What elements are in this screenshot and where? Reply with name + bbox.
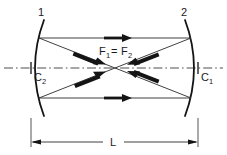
- optics-figure: 1 2 F 1 = F 2 C 2 C 1 L: [0, 0, 227, 155]
- focal-point-label-equals: =: [111, 45, 117, 57]
- length-dimension-label: L: [110, 136, 116, 148]
- dimension-arrowhead-right-icon: [188, 139, 198, 144]
- focal-point-label-f2-sub: 2: [128, 51, 132, 60]
- ray-bottom-arrowhead-icon: [122, 94, 132, 102]
- ray-bottom-arrow-tail: [104, 97, 124, 100]
- center-curvature-left-sub: 2: [42, 77, 46, 86]
- center-curvature-right-sub: 1: [209, 77, 213, 86]
- ray-top-arrow-tail: [104, 37, 124, 40]
- mirror-left-label: 1: [38, 6, 44, 18]
- dimension-arrowhead-left-icon: [31, 139, 41, 144]
- ray-top-arrowhead-icon: [122, 34, 132, 42]
- center-curvature-left-label: C: [34, 71, 42, 83]
- center-curvature-right-label: C: [201, 71, 209, 83]
- mirror-right-label: 2: [181, 6, 187, 18]
- confocal-resonator-diagram: 1 2 F 1 = F 2 C 2 C 1 L: [0, 0, 227, 155]
- focal-point-label-f1: F: [99, 45, 106, 57]
- focal-point-label-f2: F: [121, 45, 128, 57]
- focal-point-label-f1-sub: 1: [106, 51, 110, 60]
